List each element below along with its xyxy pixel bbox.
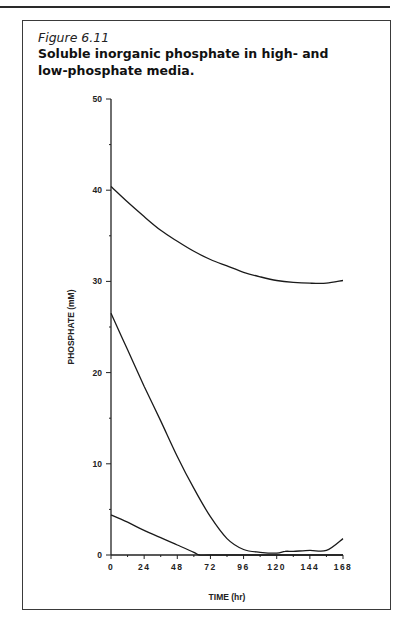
x-tick-label: 120 [267, 562, 286, 572]
x-tick-label: 0 [108, 562, 114, 572]
x-tick-label: 96 [237, 562, 249, 572]
line-chart: 01020304050024487296120144168 TIME (hr) … [0, 0, 411, 634]
chart-axes: 01020304050024487296120144168 [93, 94, 353, 572]
series-line-intermediate-phosphate [111, 313, 343, 553]
x-tick-label: 48 [171, 562, 183, 572]
x-tick-label: 72 [204, 562, 216, 572]
chart-series [111, 187, 343, 556]
x-tick-label: 168 [334, 562, 353, 572]
series-line-high-phosphate [111, 187, 343, 284]
y-tick-label: 30 [93, 276, 103, 286]
y-tick-label: 50 [93, 94, 103, 104]
y-tick-label: 0 [97, 550, 102, 560]
series-line-low-phosphate [111, 515, 343, 555]
x-axis-title: TIME (hr) [209, 592, 246, 602]
y-tick-label: 20 [93, 368, 103, 378]
y-tick-label: 10 [93, 459, 103, 469]
y-tick-label: 40 [93, 185, 103, 195]
y-axis-title: PHOSPHATE (mM) [66, 289, 76, 364]
x-tick-label: 24 [138, 562, 150, 572]
x-tick-label: 144 [301, 562, 320, 572]
